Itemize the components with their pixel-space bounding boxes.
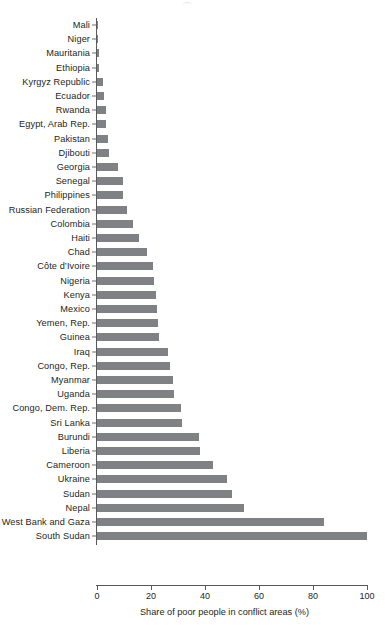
category-label: Egypt, Arab Rep. [19,119,90,129]
category-tick [92,394,96,395]
category-tick [92,380,96,381]
x-tick-label: 0 [94,591,99,601]
category-tick [92,266,96,267]
category-label: Pakistan [54,134,90,144]
x-axis-line [96,585,368,586]
x-tick [259,586,260,590]
category-label: Liberia [62,446,90,456]
x-tick [313,586,314,590]
x-tick [205,586,206,590]
bar [97,348,168,356]
category-tick [92,81,96,82]
category-tick [92,25,96,26]
x-axis-title-label: Share of poor people in conflict areas (… [140,607,309,617]
bar [97,135,108,143]
bar-row: Niger [0,32,385,46]
category-tick [92,53,96,54]
category-tick [92,252,96,253]
x-tick [97,586,98,590]
bar [97,461,213,469]
bar [97,120,106,128]
bar-row: Colombia [0,217,385,231]
category-label: Burundi [58,432,90,442]
category-tick [92,436,96,437]
x-tick-label: 60 [254,591,264,601]
category-tick [92,124,96,125]
bar [97,362,170,370]
bar [97,234,139,242]
bar [97,49,99,57]
bar [97,248,147,256]
category-label: Colombia [50,219,90,229]
bar [97,21,98,29]
x-tick-label: 20 [146,591,156,601]
bar [97,518,324,526]
category-tick [92,465,96,466]
bar-row: Egypt, Arab Rep. [0,117,385,131]
x-tick-label: 100 [359,591,374,601]
category-label: Sudan [63,489,90,499]
bar-row: Djibouti [0,146,385,160]
bar-row: Ethiopia [0,61,385,75]
bar [97,419,182,427]
category-tick [92,365,96,366]
bar [97,277,154,285]
bar-row: South Sudan [0,529,385,543]
category-tick [92,96,96,97]
bar-row: Rwanda [0,103,385,117]
category-label: Senegal [56,176,90,186]
x-axis-title: Share of poor people in conflict areas (… [0,607,385,617]
category-tick [92,422,96,423]
bar [97,475,227,483]
bar-row: Iraq [0,345,385,359]
x-tick [367,586,368,590]
x-tick [151,586,152,590]
bar-row: Philippines [0,188,385,202]
bar [97,447,200,455]
category-label: Djibouti [59,148,90,158]
bar-row: Burundi [0,430,385,444]
category-tick [92,138,96,139]
category-tick [92,323,96,324]
bar-row: Haiti [0,231,385,245]
category-tick [92,181,96,182]
bar [97,35,98,43]
bar-row: Congo, Dem. Rep. [0,401,385,415]
bar [97,92,104,100]
bar [97,206,127,214]
category-tick [92,152,96,153]
category-tick [92,309,96,310]
bar-row: Ukraine [0,472,385,486]
bar [97,433,199,441]
bar-row: Myanmar [0,373,385,387]
category-tick [92,67,96,68]
bar [97,149,109,157]
bar-row: Liberia [0,444,385,458]
bar-chart: MaliNigerMauritaniaEthiopiaKyrgyz Republ… [0,0,385,632]
category-label: Georgia [57,162,90,172]
bar-row: Nepal [0,501,385,515]
category-label: Ethiopia [56,63,90,73]
category-tick [92,493,96,494]
category-tick [92,110,96,111]
bar-row: Côte d’Ivoire [0,259,385,273]
category-label: Ukraine [58,474,90,484]
x-tick-label: 80 [308,591,318,601]
bar-row: Cameroon [0,458,385,472]
category-label: Russian Federation [9,205,90,215]
x-tick-label: 40 [200,591,210,601]
plot-area: MaliNigerMauritaniaEthiopiaKyrgyz Republ… [0,0,385,592]
category-label: Cameroon [46,460,90,470]
bar [97,305,157,313]
bar [97,291,156,299]
bar-row: Chad [0,245,385,259]
category-tick [92,408,96,409]
category-label: Uganda [57,389,90,399]
bar [97,106,106,114]
category-tick [92,209,96,210]
category-tick [92,479,96,480]
category-tick [92,280,96,281]
category-label: Kenya [63,290,90,300]
category-label: Kyrgyz Republic [22,77,90,87]
bar [97,390,174,398]
